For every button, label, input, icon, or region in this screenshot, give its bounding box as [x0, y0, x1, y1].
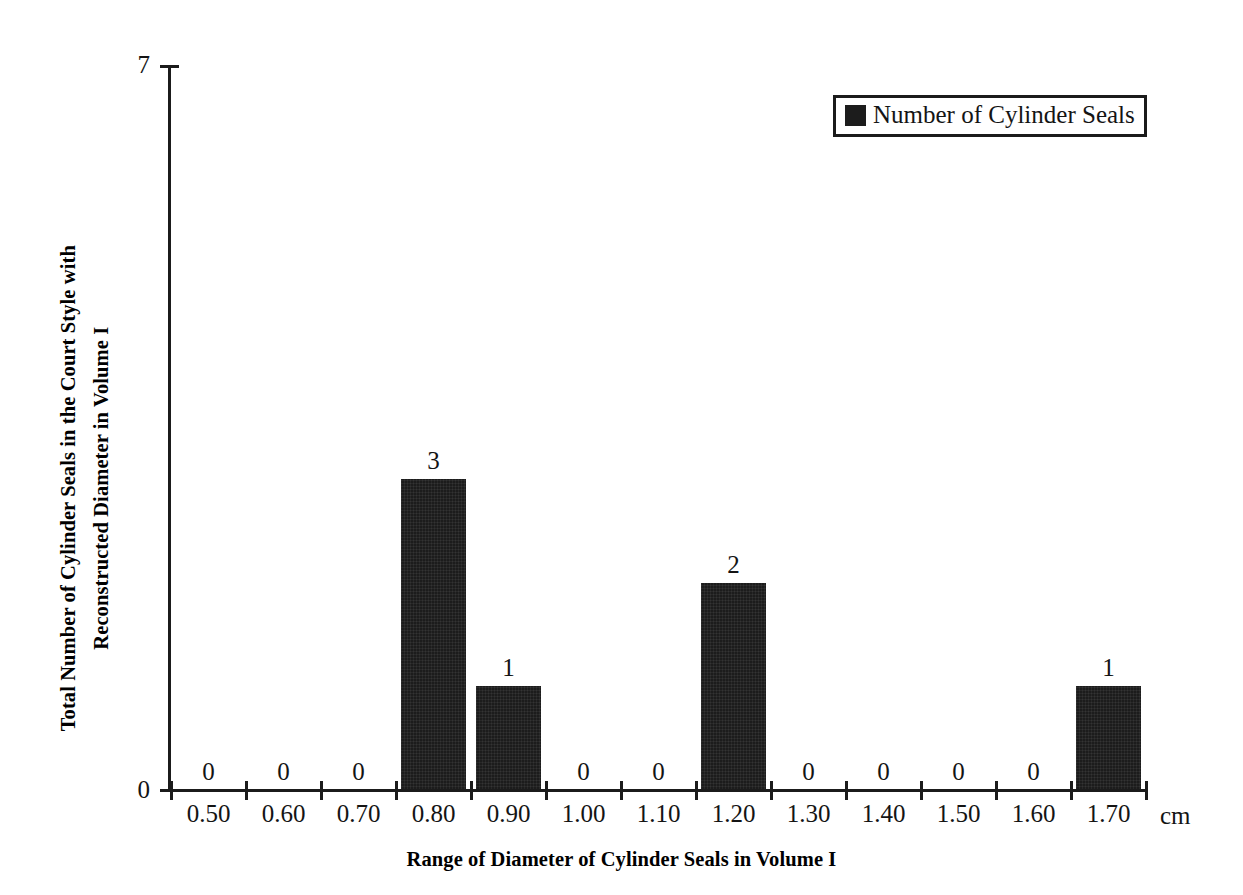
bar-group: 0: [171, 65, 246, 790]
bar[interactable]: [1076, 686, 1141, 790]
x-axis-tick: [320, 781, 323, 800]
bar-value-label: 0: [921, 759, 996, 784]
x-axis-line: [168, 789, 1146, 792]
x-axis-tick: [245, 781, 248, 800]
bar[interactable]: [401, 479, 466, 790]
legend-label: Number of Cylinder Seals: [873, 102, 1135, 128]
bar-group: 0: [321, 65, 396, 790]
y-axis-tick-label-0: 0: [98, 777, 150, 802]
bar-group: 0: [771, 65, 846, 790]
x-axis-tick: [395, 781, 398, 800]
x-axis-tick: [1070, 781, 1073, 800]
bar-group: 1: [471, 65, 546, 790]
bar-group: 0: [921, 65, 996, 790]
bar-group: 1: [1071, 65, 1146, 790]
x-axis-tick-label: 1.70: [1071, 801, 1146, 826]
x-axis-tick: [1145, 781, 1148, 800]
x-axis-tick-label: 0.50: [171, 801, 246, 826]
bar-value-label: 1: [1071, 655, 1146, 680]
x-axis-tick-label: 0.60: [246, 801, 321, 826]
bar-group: 0: [621, 65, 696, 790]
bar-value-label: 1: [471, 655, 546, 680]
bar-group: 0: [846, 65, 921, 790]
bar-value-label: 0: [546, 759, 621, 784]
bar-value-label: 3: [396, 448, 471, 473]
x-axis-tick: [695, 781, 698, 800]
x-axis-tick: [470, 781, 473, 800]
y-axis-title-line-1: Total Number of Cylinder Seals in the Co…: [57, 245, 79, 731]
x-axis-tick: [170, 781, 173, 800]
x-axis-tick-label: 1.60: [996, 801, 1071, 826]
bar-group: 2: [696, 65, 771, 790]
bar-value-label: 0: [771, 759, 846, 784]
x-axis-tick: [545, 781, 548, 800]
x-axis-tick-label: 0.70: [321, 801, 396, 826]
bar-value-label: 0: [621, 759, 696, 784]
legend-swatch-icon: [845, 105, 866, 126]
x-axis-tick-label: 0.80: [396, 801, 471, 826]
x-axis-title: Range of Diameter of Cylinder Seals in V…: [0, 849, 1243, 870]
bar-group: 3: [396, 65, 471, 790]
y-axis-tick-label-7: 7: [98, 52, 150, 77]
y-axis-title: Total Number of Cylinder Seals in the Co…: [52, 168, 118, 808]
bar[interactable]: [701, 583, 766, 790]
x-axis-tick: [620, 781, 623, 800]
x-axis-tick-label: 1.20: [696, 801, 771, 826]
x-axis-tick: [995, 781, 998, 800]
bar-group: 0: [996, 65, 1071, 790]
bar-value-label: 0: [171, 759, 246, 784]
x-axis-tick-label: 1.50: [921, 801, 996, 826]
x-axis-tick-label: 1.30: [771, 801, 846, 826]
bar-value-label: 0: [321, 759, 396, 784]
x-axis-tick-label: 1.40: [846, 801, 921, 826]
bar-group: 0: [546, 65, 621, 790]
x-axis-tick-label: 0.90: [471, 801, 546, 826]
plot-area: 0003100200001: [171, 65, 1146, 790]
y-axis-title-line-2: Reconstructed Diameter in Volume I: [85, 168, 118, 808]
bar-value-label: 0: [246, 759, 321, 784]
bar-group: 0: [246, 65, 321, 790]
x-axis-tick: [845, 781, 848, 800]
x-axis-unit-label: cm: [1160, 803, 1191, 828]
x-axis-tick-label: 1.00: [546, 801, 621, 826]
chart-figure: Total Number of Cylinder Seals in the Co…: [0, 0, 1243, 895]
bar-value-label: 0: [996, 759, 1071, 784]
chart-legend: Number of Cylinder Seals: [833, 95, 1147, 137]
x-axis-tick-label: 1.10: [621, 801, 696, 826]
bar-value-label: 2: [696, 552, 771, 577]
x-axis-tick: [920, 781, 923, 800]
bar[interactable]: [476, 686, 541, 790]
x-axis-tick: [770, 781, 773, 800]
bar-value-label: 0: [846, 759, 921, 784]
